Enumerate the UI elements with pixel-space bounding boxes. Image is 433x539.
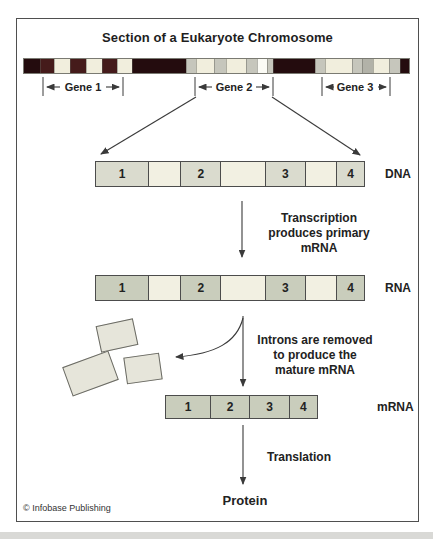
figure-border	[16, 18, 419, 522]
mrna-bar: 1234	[165, 395, 318, 419]
mrna-label: mRNA	[377, 400, 414, 414]
chromosome-segment-cream	[54, 59, 70, 73]
chromosome-segment-gray	[246, 59, 256, 73]
figure-title: Section of a Eukaryote Chromosome	[17, 30, 418, 45]
gene-1-label: Gene 1	[58, 81, 108, 93]
chromosome-segment-maroon	[70, 59, 86, 73]
chromosome-segment-gray	[186, 59, 195, 73]
transcription-line-2: produces primary	[259, 226, 379, 241]
exon-segment-4: 4	[336, 161, 365, 187]
exon-segment-3: 3	[249, 395, 289, 419]
intron-segment	[305, 161, 338, 187]
chromosome-segment-gray2	[362, 59, 372, 73]
exon-segment-1: 1	[165, 395, 211, 419]
rna-label: RNA	[385, 281, 411, 295]
dna-label: DNA	[385, 167, 411, 181]
exon-segment-1: 1	[95, 275, 149, 301]
intron-removal-annotation: Introns are removed to produce the matur…	[253, 333, 377, 378]
intron-segment	[148, 161, 181, 187]
exon-segment-2: 2	[210, 395, 250, 419]
chromosome-segment-dark	[273, 59, 315, 73]
exon-segment-2: 2	[180, 275, 221, 301]
protein-label: Protein	[205, 493, 285, 508]
exon-segment-1: 1	[95, 161, 149, 187]
intron-segment	[220, 161, 266, 187]
dna-bar: 1234	[95, 161, 365, 187]
transcription-line-3: mRNA	[259, 241, 379, 256]
chromosome-segment-dark	[24, 59, 40, 73]
chromosome-segment-cream	[373, 59, 390, 73]
rna-bar: 1234	[95, 275, 365, 301]
chromosome-segment-gray	[214, 59, 226, 73]
chromosome-segment-gray	[352, 59, 362, 73]
chromosome-segment-dark	[400, 59, 409, 73]
chromosome-segment-maroon	[102, 59, 118, 73]
gene-3-label: Gene 3	[332, 81, 378, 93]
exon-segment-3: 3	[265, 161, 306, 187]
intron-segment	[220, 275, 266, 301]
exon-segment-4: 4	[336, 275, 365, 301]
chromosome-segment-gray	[389, 59, 399, 73]
transcription-annotation: Transcription produces primary mRNA	[259, 211, 379, 256]
diagram-canvas: Section of a Eukaryote Chromosome Gene 1…	[0, 0, 433, 539]
chromosome-segment-gray	[315, 59, 325, 73]
exon-segment-4: 4	[289, 395, 318, 419]
removed-intron-piece	[123, 353, 162, 385]
chromosome-segment-cream	[325, 59, 352, 73]
introns-line-1: Introns are removed	[253, 333, 377, 348]
exon-segment-3: 3	[265, 275, 306, 301]
chromosome-segment-cream	[117, 59, 132, 73]
chromosome-segment-cream	[86, 59, 102, 73]
intron-segment	[305, 275, 338, 301]
chromosome-segment-maroon	[40, 59, 54, 73]
introns-line-2: to produce the	[253, 348, 377, 363]
chromosome-segment-white	[257, 59, 267, 73]
copyright-notice: © Infobase Publishing	[23, 503, 111, 513]
chromosome-bar	[23, 58, 410, 74]
cropped-caption-band	[0, 532, 433, 539]
intron-segment	[148, 275, 181, 301]
chromosome-segment-cream	[226, 59, 247, 73]
transcription-line-1: Transcription	[259, 211, 379, 226]
chromosome-segment-cream	[196, 59, 214, 73]
chromosome-segment-dark	[132, 59, 186, 73]
translation-annotation: Translation	[267, 450, 357, 465]
gene-2-label: Gene 2	[210, 81, 258, 93]
exon-segment-2: 2	[180, 161, 221, 187]
introns-line-3: mature mRNA	[253, 363, 377, 378]
